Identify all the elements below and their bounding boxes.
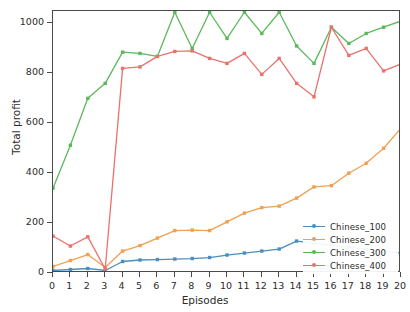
data-point-marker <box>243 251 246 254</box>
data-point-marker <box>382 26 385 29</box>
x-axis-tick-mark <box>296 272 297 277</box>
legend-label: Chinese_200 <box>330 235 386 245</box>
data-point-marker <box>295 44 298 47</box>
x-axis-tick-mark <box>278 272 279 277</box>
data-point-marker <box>260 249 263 252</box>
data-point-marker <box>347 171 350 174</box>
legend-item-chinese_300[interactable]: Chinese_300 <box>303 246 398 259</box>
legend-item-chinese_200[interactable]: Chinese_200 <box>303 233 398 246</box>
data-point-marker <box>278 204 281 207</box>
data-point-marker <box>278 57 281 60</box>
legend-item-chinese_100[interactable]: Chinese_100 <box>303 220 398 233</box>
x-axis-tick-mark <box>400 272 401 277</box>
x-axis-tick-mark <box>104 272 105 277</box>
data-point-marker <box>121 67 124 70</box>
data-point-marker <box>330 184 333 187</box>
data-point-marker <box>86 267 89 270</box>
legend-color-swatch <box>303 221 325 232</box>
data-point-marker <box>243 52 246 55</box>
data-point-marker <box>138 65 141 68</box>
data-point-marker <box>399 251 400 254</box>
legend-label: Chinese_400 <box>330 261 386 271</box>
data-point-marker <box>208 57 211 60</box>
legend-item-chinese_400[interactable]: Chinese_400 <box>303 259 398 272</box>
legend-color-swatch <box>303 260 325 271</box>
data-point-marker <box>173 50 176 53</box>
x-axis-tick-mark <box>191 272 192 277</box>
data-point-marker <box>191 49 194 52</box>
data-point-marker <box>260 32 263 35</box>
data-point-marker <box>312 95 315 98</box>
x-axis-tick-mark <box>226 272 227 277</box>
data-point-marker <box>86 235 89 238</box>
data-point-marker <box>347 54 350 57</box>
data-point-marker <box>295 239 298 242</box>
data-point-marker <box>138 244 141 247</box>
data-point-marker <box>191 228 194 231</box>
data-point-marker <box>278 11 281 14</box>
data-point-marker <box>243 211 246 214</box>
data-point-marker <box>86 97 89 100</box>
x-axis-tick-mark <box>243 272 244 277</box>
data-point-marker <box>173 257 176 260</box>
data-point-marker <box>156 236 159 239</box>
data-point-marker <box>347 42 350 45</box>
data-point-marker <box>208 229 211 232</box>
data-point-marker <box>138 52 141 55</box>
data-point-marker <box>260 206 263 209</box>
data-point-marker <box>295 82 298 85</box>
line-chart-figure: 02004006008001000 Total profit 012345678… <box>0 0 410 312</box>
data-point-marker <box>121 260 124 263</box>
y-axis-tick-label: 1000 <box>20 17 44 27</box>
data-point-marker <box>69 259 72 262</box>
x-axis-tick-mark <box>52 272 53 277</box>
data-point-marker <box>330 26 333 29</box>
x-axis-tick-mark <box>139 272 140 277</box>
x-axis-tick-label: 20 <box>390 280 410 291</box>
data-point-marker <box>382 69 385 72</box>
x-axis-tick-mark <box>156 272 157 277</box>
data-point-marker <box>69 244 72 247</box>
data-point-marker <box>138 258 141 261</box>
data-point-marker <box>295 196 298 199</box>
x-axis-tick-mark <box>209 272 210 277</box>
data-point-marker <box>208 11 211 14</box>
data-point-marker <box>365 162 368 165</box>
legend-label: Chinese_300 <box>330 248 386 258</box>
data-point-marker <box>173 11 176 14</box>
y-axis-tick-label: 200 <box>26 217 44 227</box>
data-point-marker <box>312 62 315 65</box>
data-point-marker <box>53 234 55 237</box>
legend-color-swatch <box>303 247 325 258</box>
data-point-marker <box>191 257 194 260</box>
data-point-marker <box>156 55 159 58</box>
x-axis-tick-mark <box>174 272 175 277</box>
y-axis-tick-label: 400 <box>26 167 44 177</box>
y-axis-tick-label: 600 <box>26 117 44 127</box>
data-point-marker <box>243 11 246 14</box>
x-axis-title: Episodes <box>0 294 410 306</box>
data-point-marker <box>53 186 55 189</box>
data-point-marker <box>312 185 315 188</box>
data-point-marker <box>382 147 385 150</box>
data-point-marker <box>121 50 124 53</box>
x-axis-tick-mark <box>87 272 88 277</box>
x-axis-tick-mark <box>69 272 70 277</box>
y-axis-tick-labels: 02004006008001000 <box>0 0 44 312</box>
data-point-marker <box>225 220 228 223</box>
data-point-marker <box>365 32 368 35</box>
data-point-marker <box>69 268 72 271</box>
x-axis-tick-mark <box>122 272 123 277</box>
data-point-marker <box>399 62 400 65</box>
chart-legend: Chinese_100Chinese_200Chinese_300Chinese… <box>303 218 398 274</box>
data-point-marker <box>104 82 107 85</box>
data-point-marker <box>278 247 281 250</box>
data-point-marker <box>53 265 55 268</box>
series-Chinese_300 <box>53 11 400 190</box>
data-point-marker <box>225 62 228 65</box>
data-point-marker <box>399 19 400 22</box>
data-point-marker <box>86 253 89 256</box>
data-point-marker <box>53 269 55 272</box>
data-point-marker <box>225 37 228 40</box>
y-axis-tick-label: 0 <box>38 267 44 277</box>
